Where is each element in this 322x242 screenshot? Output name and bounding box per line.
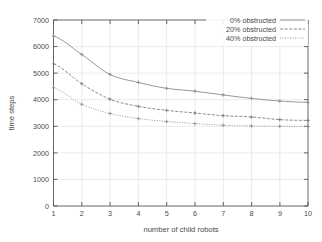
x-tick-label-4: 4 [136, 209, 140, 218]
y-tick-label-1000: 1000 [33, 175, 49, 184]
y-axis-title: time steps [7, 95, 16, 130]
legend-label-2: 40% obstructed [226, 34, 276, 43]
y-tick-label-0: 0 [45, 202, 49, 211]
chart-svg: 0 1000 2000 3000 4000 5000 6000 7000 1 2… [0, 0, 322, 242]
x-tick-label-8: 8 [250, 209, 254, 218]
legend-label-0: 0% obstructed [230, 16, 276, 25]
x-tick-label-7: 7 [221, 209, 225, 218]
x-tick-label-6: 6 [193, 209, 197, 218]
x-tick-label-3: 3 [108, 209, 112, 218]
y-tick-label-7000: 7000 [33, 16, 49, 25]
x-tick-label-10: 10 [304, 209, 312, 218]
y-tick-label-5000: 5000 [33, 69, 49, 78]
chart-figure: 0 1000 2000 3000 4000 5000 6000 7000 1 2… [0, 0, 322, 242]
x-tick-label-2: 2 [80, 209, 84, 218]
y-tick-label-6000: 6000 [33, 42, 49, 51]
legend-label-1: 20% obstructed [226, 25, 276, 34]
x-tick-label-1: 1 [52, 209, 56, 218]
x-axis-title: number of child robots [143, 225, 218, 234]
y-tick-label-4000: 4000 [33, 95, 49, 104]
legend: 0% obstructed 20% obstructed 40% obstruc… [206, 14, 308, 46]
y-tick-label-2000: 2000 [33, 149, 49, 158]
x-tick-label-5: 5 [165, 209, 169, 218]
y-tick-label-3000: 3000 [33, 122, 49, 131]
x-tick-label-9: 9 [278, 209, 282, 218]
